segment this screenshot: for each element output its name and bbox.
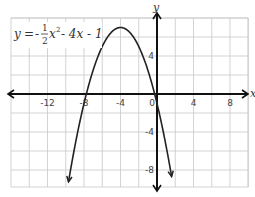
x-axis-label: x bbox=[250, 87, 255, 100]
x-tick-label: 0 bbox=[149, 98, 155, 108]
equation-exponent: 2 bbox=[56, 26, 60, 34]
x-tick-label: -12 bbox=[40, 98, 55, 108]
y-tick-label: -8 bbox=[145, 165, 154, 175]
y-axis-label: y bbox=[152, 1, 160, 14]
equation-frac-den: 2 bbox=[42, 36, 48, 46]
equation-label: y = - 1 2 x 2 - 4x - 1 bbox=[12, 22, 103, 48]
x-tick-label: 4 bbox=[191, 98, 197, 108]
equation-frac-num: 1 bbox=[42, 23, 48, 33]
parabola-chart: -12-8-40484-4-8 y = - 1 2 x 2 - 4x - 1 y… bbox=[0, 0, 255, 197]
y-tick-label: -4 bbox=[145, 127, 154, 137]
equation-sign: - bbox=[35, 27, 39, 41]
equation-equals: = bbox=[24, 27, 34, 41]
y-tick-label: 4 bbox=[148, 51, 154, 61]
equation-var: x bbox=[49, 27, 56, 41]
equation-tail: - 4x - 1 bbox=[61, 27, 103, 41]
x-tick-label: 8 bbox=[227, 98, 233, 108]
x-tick-label: -4 bbox=[116, 98, 125, 108]
equation-lhs: y bbox=[13, 27, 21, 41]
